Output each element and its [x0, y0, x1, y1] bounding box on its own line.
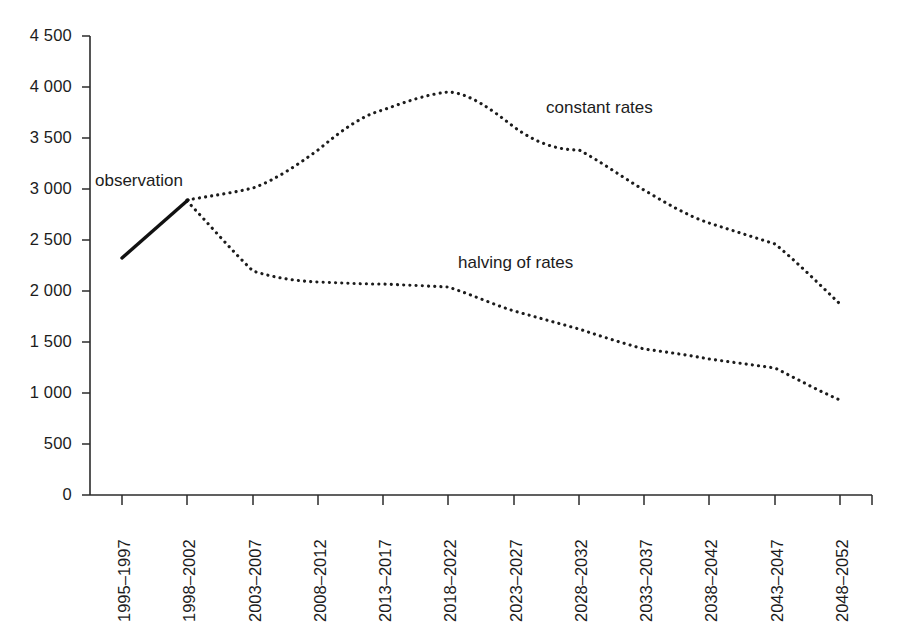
annotation-constant-rates: constant rates [546, 99, 653, 116]
series-line-halving-of-rates [187, 201, 840, 400]
y-tick-label-1500: 1 500 [0, 333, 72, 350]
y-tick-label-0: 0 [0, 486, 72, 503]
chart-figure: 4 500 4 000 3 500 3 000 2 500 2 000 1 50… [0, 0, 899, 638]
y-tick-label-500: 500 [0, 435, 72, 452]
y-tick-label-3000: 3 000 [0, 180, 72, 197]
x-tick-label-2013-2017: 2013–2017 [377, 539, 394, 622]
x-axis-ticks [122, 495, 872, 505]
x-tick-label-2043-2047: 2043–2047 [769, 539, 786, 622]
series-line-constant-rates [187, 92, 840, 304]
y-tick-label-4000: 4 000 [0, 78, 72, 95]
y-tick-label-2000: 2 000 [0, 282, 72, 299]
x-tick-label-2048-2052: 2048–2052 [834, 539, 851, 622]
y-tick-label-1000: 1 000 [0, 384, 72, 401]
x-tick-label-2023-2027: 2023–2027 [508, 539, 525, 622]
annotation-observation: observation [95, 172, 183, 189]
x-tick-label-2033-2037: 2033–2037 [638, 539, 655, 622]
y-tick-label-2500: 2 500 [0, 231, 72, 248]
x-tick-label-1998-2002: 1998–2002 [181, 539, 198, 622]
y-tick-label-3500: 3 500 [0, 129, 72, 146]
y-tick-label-4500: 4 500 [0, 27, 72, 44]
x-tick-label-2038-2042: 2038–2042 [703, 539, 720, 622]
series-line-observation [122, 200, 188, 258]
annotation-halving-of-rates: halving of rates [458, 254, 573, 271]
y-axis-ticks [82, 36, 90, 495]
x-tick-label-2018-2022: 2018–2022 [442, 539, 459, 622]
x-tick-label-2008-2012: 2008–2012 [312, 539, 329, 622]
x-tick-label-2028-2032: 2028–2032 [573, 539, 590, 622]
x-tick-label-2003-2007: 2003–2007 [247, 539, 264, 622]
x-tick-label-1995-1997: 1995–1997 [116, 539, 133, 622]
